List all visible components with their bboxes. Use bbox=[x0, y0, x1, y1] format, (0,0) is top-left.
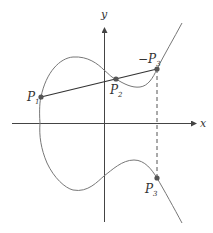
x-axis-label: x bbox=[200, 117, 207, 130]
secant-line bbox=[41, 69, 157, 97]
point-p2 bbox=[113, 76, 118, 81]
label-neg-p3: −P3 bbox=[138, 52, 161, 68]
curve-upper-branch bbox=[40, 23, 182, 123]
y-axis-label: y bbox=[100, 8, 108, 21]
label-p3: P3 bbox=[144, 182, 158, 198]
point-p3 bbox=[154, 175, 159, 180]
label-p1: P1 bbox=[26, 90, 40, 106]
label-p2: P2 bbox=[109, 83, 123, 99]
elliptic-curve-diagram: x y P1 P2 −P3 P3 bbox=[0, 0, 213, 233]
curve-lower-branch bbox=[40, 123, 182, 223]
